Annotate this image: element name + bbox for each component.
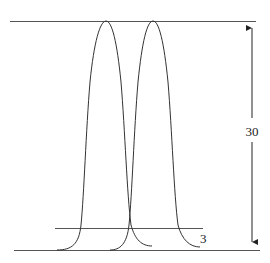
threshold-label: 3 <box>200 231 207 246</box>
height-label: 30 <box>246 124 259 139</box>
peak-curve-left <box>57 21 152 250</box>
peak-curve-right <box>110 21 200 250</box>
peaks-diagram: 30 3 <box>0 0 270 263</box>
